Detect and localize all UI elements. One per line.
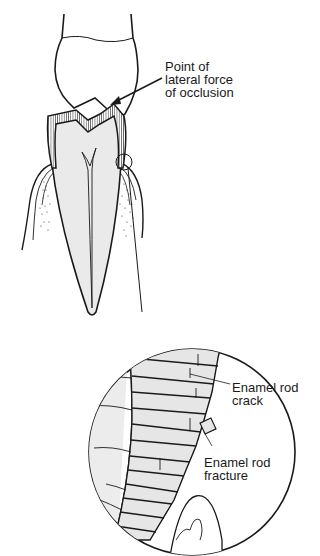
gingiva-left	[22, 164, 54, 250]
rod-crack-label-line2: crack	[232, 394, 298, 407]
rod-crack-label: Enamel rod crack	[232, 381, 298, 407]
lower-tooth	[48, 104, 133, 315]
force-point-label: Point of lateral force of occlusion	[165, 60, 234, 99]
force-point-label-line3: of occlusion	[165, 86, 234, 99]
rod-fracture-label-line2: fracture	[204, 469, 270, 482]
opposing-tooth	[55, 14, 138, 118]
rod-fracture-label: Enamel rod fracture	[204, 456, 270, 482]
magnified-view	[66, 318, 295, 556]
